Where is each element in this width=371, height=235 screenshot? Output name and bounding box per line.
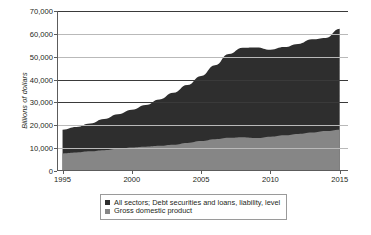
x-axis-tick-label: 2005: [193, 175, 210, 184]
y-axis-tick-label: 40,000: [30, 75, 53, 84]
y-axis-tick-label: 0: [49, 167, 53, 176]
area-chart: Billions of dollars 010,00020,00030,0004…: [0, 0, 371, 235]
gridline: [57, 148, 348, 149]
legend-item[interactable]: Gross domestic product: [105, 207, 280, 214]
gridline: [57, 125, 348, 126]
x-tick-mark: [132, 171, 133, 174]
x-axis-tick-label: 2010: [262, 175, 279, 184]
x-tick-mark: [63, 171, 64, 174]
gridline: [57, 34, 348, 35]
x-axis-line: [57, 170, 348, 171]
y-axis-tick-label: 70,000: [30, 7, 53, 16]
chart-legend: All sectors; Debt securities and loans, …: [100, 194, 287, 220]
plot-area: 010,00020,00030,00040,00050,00060,00070,…: [57, 11, 348, 171]
gridline: [57, 11, 348, 12]
legend-swatch-icon: [105, 209, 110, 214]
legend-swatch-icon: [105, 200, 110, 205]
legend-item[interactable]: All sectors; Debt securities and loans, …: [105, 199, 280, 206]
gridline: [57, 102, 348, 103]
y-axis-tick-label: 50,000: [30, 52, 53, 61]
x-tick-mark: [201, 171, 202, 174]
x-tick-mark: [270, 171, 271, 174]
y-axis-tick-label: 20,000: [30, 121, 53, 130]
y-axis-line: [57, 11, 58, 171]
y-axis-title: Billions of dollars: [20, 46, 29, 156]
gridline: [57, 57, 348, 58]
x-axis-tick-label: 1995: [54, 175, 71, 184]
x-axis-tick-label: 2000: [123, 175, 140, 184]
y-axis-tick-label: 60,000: [30, 29, 53, 38]
x-tick-mark: [340, 171, 341, 174]
legend-label: Gross domestic product: [114, 207, 192, 214]
y-axis-tick-label: 10,000: [30, 144, 53, 153]
y-tick-mark: [54, 171, 57, 172]
legend-label: All sectors; Debt securities and loans, …: [114, 199, 280, 206]
series-layer: [57, 11, 348, 171]
x-axis-tick-label: 2015: [331, 175, 348, 184]
y-axis-tick-label: 30,000: [30, 98, 53, 107]
gridline: [57, 80, 348, 81]
